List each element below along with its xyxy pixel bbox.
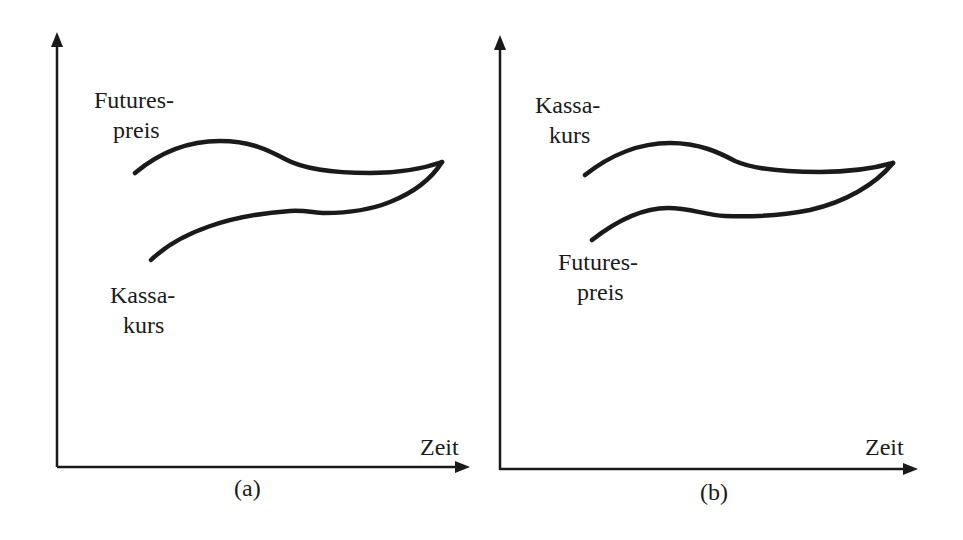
panel-a-lower-curve xyxy=(151,162,442,260)
panel-a-lower-label-line1: Kassa- xyxy=(110,282,175,308)
panel-a-lower-label-line2: kurs xyxy=(123,312,164,338)
panel-b-caption: (b) xyxy=(700,479,728,505)
panel-b-lower-curve xyxy=(592,163,893,240)
panel-a-x-axis-arrow-icon xyxy=(455,461,470,473)
panel-b-y-axis-arrow-icon xyxy=(494,35,506,50)
panel-b-x-axis-arrow-icon xyxy=(903,463,918,475)
panel-b-lower-label-line2: preis xyxy=(577,279,624,305)
panel-b-x-axis-label: Zeit xyxy=(865,434,904,460)
panel-b-upper-curve xyxy=(585,143,893,175)
panel-a-caption: (a) xyxy=(234,475,261,501)
diagram-canvas: Futures- preis Kassa- kurs Zeit (a) Kass… xyxy=(0,0,963,540)
panel-a-y-axis-arrow-icon xyxy=(51,32,63,47)
panel-a-upper-label-line2: preis xyxy=(113,117,160,143)
panel-b: Kassa- kurs Futures- preis Zeit (b) xyxy=(494,35,918,505)
panel-a-upper-curve xyxy=(135,141,442,173)
panel-b-upper-label-line1: Kassa- xyxy=(535,92,600,118)
panel-b-lower-label-line1: Futures- xyxy=(558,249,638,275)
panel-a-x-axis-label: Zeit xyxy=(420,434,459,460)
panel-b-upper-label-line2: kurs xyxy=(549,122,590,148)
panel-a-upper-label-line1: Futures- xyxy=(94,87,174,113)
panel-a: Futures- preis Kassa- kurs Zeit (a) xyxy=(51,32,470,501)
